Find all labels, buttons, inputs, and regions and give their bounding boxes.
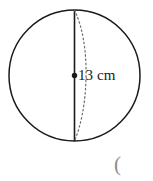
center-point-dot (72, 73, 77, 78)
diameter-measure-label: 13 cm (78, 66, 116, 84)
circle-diagram-svg (0, 0, 153, 181)
stray-parenthesis-character: ( (114, 152, 121, 176)
geometry-figure: 13 cm ( (0, 0, 153, 181)
